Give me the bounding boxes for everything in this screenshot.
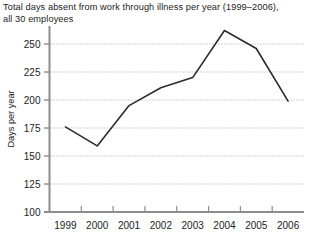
- y-tick-label: 250: [24, 39, 41, 50]
- chart-plot-area: 250225200175150125100 199920002001200220…: [0, 26, 330, 248]
- y-axis-title: Days per year: [6, 90, 16, 147]
- y-tick-label: 125: [24, 179, 41, 190]
- y-tick-labels-group: 250225200175150125100: [24, 39, 41, 218]
- data-series-line: [65, 31, 288, 146]
- x-tick-label: 2000: [86, 220, 109, 231]
- line-chart-figure: Total days absent from work through illn…: [0, 0, 330, 248]
- y-tick-label: 150: [24, 151, 41, 162]
- x-tick-label: 2002: [150, 220, 173, 231]
- x-tick-label: 2001: [118, 220, 141, 231]
- x-tick-label: 2003: [182, 220, 205, 231]
- y-tick-label: 100: [24, 207, 41, 218]
- x-tick-label: 2005: [245, 220, 268, 231]
- y-tick-label: 200: [24, 95, 41, 106]
- y-tick-label: 225: [24, 67, 41, 78]
- y-tick-label: 175: [24, 123, 41, 134]
- x-tick-label: 2004: [213, 220, 236, 231]
- chart-title: Total days absent from work through illn…: [3, 1, 327, 26]
- x-tick-label: 2006: [277, 220, 300, 231]
- x-tick-labels-group: 19992000200120022003200420052006: [54, 220, 299, 231]
- x-tick-label: 1999: [54, 220, 77, 231]
